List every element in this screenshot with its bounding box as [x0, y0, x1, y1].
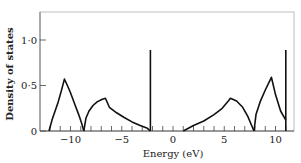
y-tick-label: 0: [31, 126, 37, 137]
x-axis-label: Energy (eV): [143, 148, 204, 159]
density-of-states-chart: −10−50510 00·51·0 Energy (eV) Density of…: [0, 0, 301, 163]
series-line: [254, 77, 286, 131]
x-tick-label: −5: [114, 134, 129, 145]
x-tick-label: 10: [269, 134, 282, 145]
x-tick-label: −10: [60, 134, 81, 145]
y-axis-ticks: 00·51·0: [21, 35, 46, 137]
x-tick-label: 0: [170, 134, 176, 145]
x-tick-label: 5: [221, 134, 227, 145]
series-line: [49, 79, 84, 131]
y-tick-label: 0·5: [21, 80, 37, 91]
y-tick-label: 1·0: [21, 35, 37, 46]
data-series: [49, 50, 286, 131]
series-line: [84, 98, 151, 131]
x-axis-ticks: −10−50510: [50, 126, 286, 145]
series-line: [183, 98, 254, 131]
y-axis-label: Density of states: [4, 27, 15, 121]
